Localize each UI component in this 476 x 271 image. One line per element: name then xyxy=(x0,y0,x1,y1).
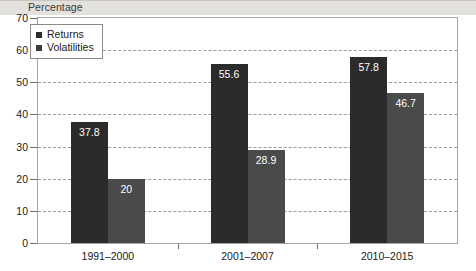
bar-value-label: 37.8 xyxy=(71,126,108,138)
bar-returns: 37.8 xyxy=(71,122,108,244)
bar-value-label: 57.8 xyxy=(350,61,387,73)
y-axis-tick xyxy=(30,211,37,212)
bar-volatilities: 28.9 xyxy=(248,150,285,243)
y-axis-tick-label: 0 xyxy=(6,237,28,249)
bar-value-label: 46.7 xyxy=(387,97,424,109)
legend-label: Returns xyxy=(47,28,84,41)
y-axis-tick-label: 70 xyxy=(6,12,28,24)
y-axis-tick-label: 60 xyxy=(6,44,28,56)
bar-returns: 55.6 xyxy=(211,64,248,243)
y-axis-tick xyxy=(30,243,37,244)
x-axis-category-label: 2001–2007 xyxy=(221,250,274,262)
x-axis-tick xyxy=(178,244,179,249)
x-axis-category-label: 1991–2000 xyxy=(82,250,135,262)
legend-item-returns: Returns xyxy=(36,28,94,41)
y-axis-tick-label: 40 xyxy=(6,108,28,120)
y-axis-tick-label: 20 xyxy=(6,173,28,185)
y-axis-tick-label: 50 xyxy=(6,76,28,88)
legend-swatch-icon xyxy=(36,32,42,38)
y-axis-tick xyxy=(30,114,37,115)
bar-returns: 57.8 xyxy=(350,57,387,243)
bar-volatilities: 46.7 xyxy=(387,93,424,243)
legend-label: Volatilities xyxy=(47,41,94,54)
y-axis-tick xyxy=(30,147,37,148)
legend-swatch-icon xyxy=(36,45,42,51)
y-axis-tick xyxy=(30,179,37,180)
y-axis-tick xyxy=(30,18,37,19)
x-axis-tick xyxy=(317,244,318,249)
y-axis-tick-label: 30 xyxy=(6,141,28,153)
x-axis-category-label: 2010–2015 xyxy=(361,250,414,262)
chart-legend: Returns Volatilities xyxy=(30,24,103,59)
bar-volatilities: 20 xyxy=(108,179,145,243)
bar-value-label: 20 xyxy=(108,183,145,195)
bar-chart: Percentage 37.82055.628.957.846.7 010203… xyxy=(0,0,476,271)
gridline xyxy=(38,82,457,83)
y-axis-tick xyxy=(30,82,37,83)
y-axis-title: Percentage xyxy=(28,1,83,13)
legend-item-volatilities: Volatilities xyxy=(36,41,94,54)
bar-value-label: 28.9 xyxy=(248,154,285,166)
y-axis-tick-label: 10 xyxy=(6,205,28,217)
bar-value-label: 55.6 xyxy=(211,68,248,80)
